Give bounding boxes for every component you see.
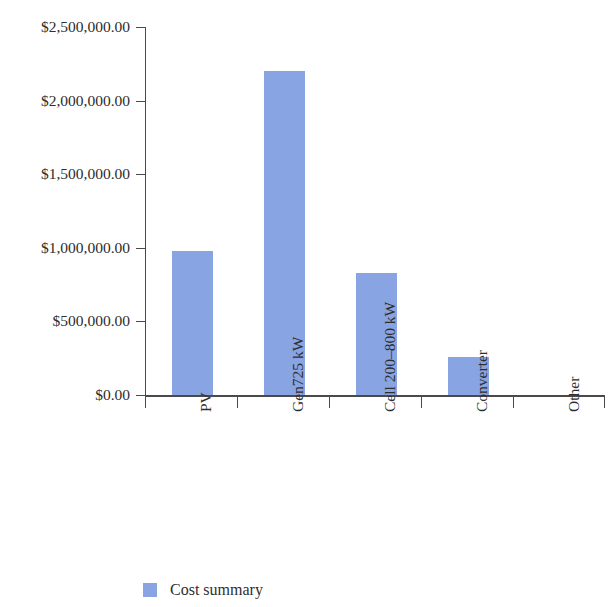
bar-pv <box>172 251 213 395</box>
x-axis-line <box>145 395 605 397</box>
y-tick-mark <box>136 395 145 396</box>
legend: Cost summary <box>143 581 263 599</box>
y-tick-mark <box>136 27 145 28</box>
x-tick-mark <box>329 396 330 408</box>
y-tick-mark <box>136 174 145 175</box>
y-tick-label: $2,000,000.00 <box>41 90 130 112</box>
x-tick-mark <box>513 396 514 408</box>
bar-chart: $2,500,000.00 $2,000,000.00 $1,500,000.0… <box>0 0 609 607</box>
legend-swatch-cost-summary <box>143 583 157 597</box>
x-tick-label: Converter <box>474 350 490 412</box>
x-tick-label: Cell 200–800 kW <box>382 302 398 412</box>
x-tick-label: Gen725 kW <box>290 337 306 412</box>
plot-area <box>145 27 605 395</box>
y-tick-label: $1,500,000.00 <box>41 163 130 185</box>
y-tick-label: $0.00 <box>95 384 130 406</box>
x-tick-mark <box>604 396 605 408</box>
y-tick-mark <box>136 101 145 102</box>
x-tick-mark <box>145 396 146 408</box>
x-tick-mark <box>237 396 238 408</box>
x-tick-label: PV <box>198 392 214 412</box>
x-tick-label: Other <box>566 377 582 412</box>
legend-label-cost-summary: Cost summary <box>170 581 263 599</box>
y-tick-label: $1,000,000.00 <box>41 237 130 259</box>
y-tick-mark <box>136 248 145 249</box>
y-tick-label: $500,000.00 <box>53 310 131 332</box>
y-tick-label: $2,500,000.00 <box>41 16 130 38</box>
y-tick-mark <box>136 321 145 322</box>
x-tick-mark <box>421 396 422 408</box>
